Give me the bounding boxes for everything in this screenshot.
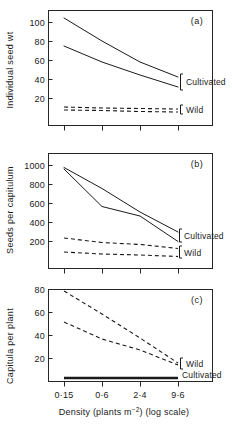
panel-c-ytick-20: 20 [35,354,45,364]
panel-a-series-wild-1 [64,107,178,109]
panel-c-label-wild: Wild [186,359,203,369]
panel-b-series-cultivated-2 [64,169,178,242]
panel-b-series-wild-1 [64,238,178,249]
xtick-label-4: 9·6 [171,390,185,400]
panel-a-ylabel: Individual seed wt [5,31,15,108]
panel-a-label-cultivated: Cultivated [186,77,226,87]
xtick-label-2: 0·6 [95,390,109,400]
panel-b-label-cultivated: Cultivated [184,231,224,241]
panel-a-series-wild-2 [64,110,178,112]
xtick-label-3: 2·4 [133,390,147,400]
panel-c-tag: (c) [191,295,203,305]
xaxis-title: Density (plants m−2) (log scale) [59,406,189,418]
panel-b-ytick-400: 400 [29,218,45,228]
panel-b-ytick-200: 200 [29,237,45,247]
panel-b-ytick-1000: 1000 [24,161,45,171]
panel-b-tag: (b) [191,159,204,169]
panel-b-label-wild: Wild [184,248,201,258]
panel-a-bracket-wild [181,105,184,114]
panel-a-series-cultivated-2 [64,46,178,87]
panel-c: Capitula per plant 80 60 40 20 Wild Cult… [0,284,232,426]
panel-a-ytick-40: 40 [35,75,45,85]
panel-b-ylabel: Seeds per capitulum [5,166,15,254]
panel-a-plot: Individual seed wt 100 80 60 40 20 Culti… [0,0,232,142]
panel-b-ytick-600: 600 [29,199,45,209]
panel-a-ytick-80: 80 [35,37,45,47]
panel-b-series-cultivated-1 [64,168,178,233]
panel-b-bracket-cultivated [180,229,183,242]
panel-a-ytick-20: 20 [35,94,45,104]
xaxis-title-exponent: −2 [132,406,140,413]
panel-b-ytick-800: 800 [29,180,45,190]
panel-b-series-wild-2 [64,252,178,257]
panel-c-ytick-80: 80 [35,285,45,295]
panel-a-bracket-cultivated [181,74,184,90]
xaxis-title-main: Density (plants m [59,407,132,417]
panel-a: Individual seed wt 100 80 60 40 20 Culti… [0,0,232,142]
figure-container: Individual seed wt 100 80 60 40 20 Culti… [0,0,232,426]
panel-b-bracket-wild [180,246,183,258]
panel-c-series-wild-1 [64,291,178,363]
panel-a-ytick-100: 100 [29,18,45,28]
panel-b-plot: Seeds per capitulum 1000 800 600 400 200… [0,142,232,284]
panel-c-label-cultivated: Cultivated [182,370,222,380]
panel-c-bracket-wild [181,358,184,369]
xaxis-title-rest: ) (log scale) [140,407,190,417]
panel-a-ytick-60: 60 [35,56,45,66]
panel-a-label-wild: Wild [186,105,203,115]
panel-c-plot: Capitula per plant 80 60 40 20 Wild Cult… [0,284,232,426]
panel-a-tag: (a) [191,16,204,26]
panel-c-ytick-40: 40 [35,331,45,341]
xtick-label-1: 0·15 [55,390,74,400]
panel-b: Seeds per capitulum 1000 800 600 400 200… [0,142,232,284]
panel-c-ylabel: Capitula per plant [5,308,15,384]
panel-c-ytick-60: 60 [35,308,45,318]
panel-c-series-wild-2 [64,322,178,365]
